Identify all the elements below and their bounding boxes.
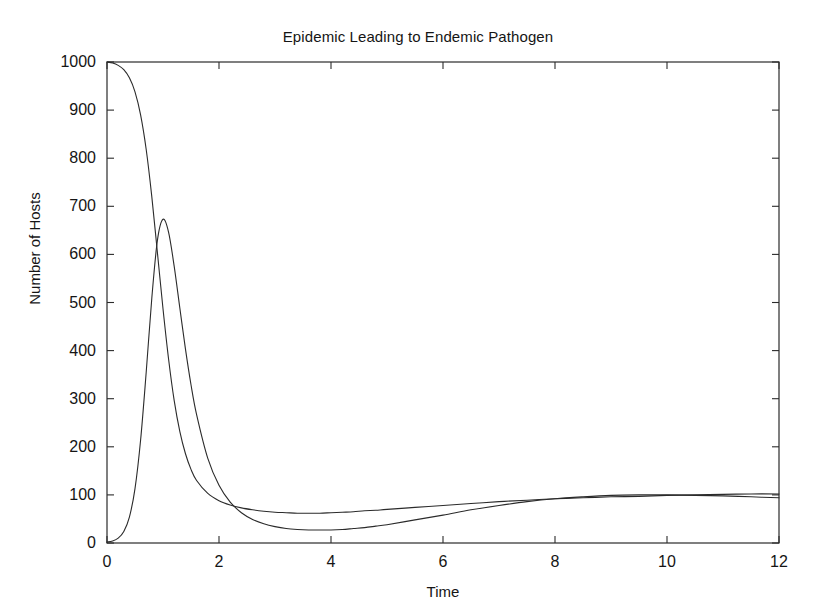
x-tick-label: 4 (327, 553, 336, 571)
x-tick-label: 8 (551, 553, 560, 571)
chart-figure: Epidemic Leading to Endemic Pathogen Num… (0, 0, 836, 614)
data-series-lines (107, 62, 779, 542)
x-tick-label: 2 (215, 553, 224, 571)
y-tick-label: 700 (10, 197, 96, 215)
y-tick-label: 400 (10, 342, 96, 360)
y-tick-label: 0 (10, 534, 96, 552)
axis-tick-marks (107, 62, 779, 543)
y-tick-label: 800 (10, 149, 96, 167)
plot-canvas (0, 0, 836, 614)
x-tick-label: 0 (103, 553, 112, 571)
y-tick-label: 200 (10, 438, 96, 456)
x-tick-label: 12 (770, 553, 788, 571)
y-tick-label: 1000 (10, 53, 96, 71)
x-tick-label: 6 (439, 553, 448, 571)
axis-frame (107, 62, 779, 543)
y-tick-label: 500 (10, 294, 96, 312)
y-tick-label: 300 (10, 390, 96, 408)
series-line-1 (107, 62, 779, 513)
y-tick-label: 100 (10, 486, 96, 504)
x-tick-label: 10 (658, 553, 676, 571)
y-tick-label: 900 (10, 101, 96, 119)
y-tick-label: 600 (10, 245, 96, 263)
